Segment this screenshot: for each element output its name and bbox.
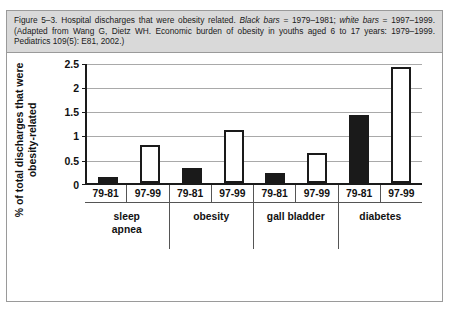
category-label-sleep-apnea: sleepapnea [85,203,170,249]
plot-box [85,64,422,185]
category-label-row: sleepapneaobesitygall bladderdiabetes [85,203,422,249]
period-label-3: 97-99 [212,185,254,202]
bar-slot [255,64,297,183]
y-axis-tick-1-5: 1.5 [43,106,79,118]
period-label-4: 79-81 [254,185,296,202]
y-axis-tick-2-5: 2.5 [43,58,79,70]
y-axis-label-line-1: % of total discharges that were [13,45,26,235]
bar-slot [380,64,422,183]
y-axis-tick-0-5: 0.5 [43,155,79,167]
y-axis-tick-1: 1 [43,130,79,142]
bar-slot [87,64,129,183]
x-axis: 79-8197-9979-8197-9979-8197-9979-8197-99… [85,185,422,249]
period-label-6: 79-81 [339,185,381,202]
period-label-5: 97-99 [296,185,338,202]
bar-series [87,64,422,183]
caption-text-part1: Figure 5–3. Hospital discharges that wer… [14,15,239,25]
y-axis-tick-0: 0 [43,179,79,191]
bar-gall-bladder-79-81[interactable] [265,173,285,183]
y-axis-label-line-2: obesity-related [26,45,39,235]
period-label-0: 79-81 [85,185,127,202]
caption-italic-white-bars: white bars [340,15,379,25]
bar-gall-bladder-97-99[interactable] [307,153,327,183]
bar-slot [129,64,171,183]
bar-sleep-apnea-79-81[interactable] [98,177,118,183]
figure-caption: Figure 5–3. Hospital discharges that wer… [7,11,442,53]
category-label-line: sleep [85,210,169,223]
bar-slot [171,64,213,183]
y-axis-label: % of total discharges that were obesity-… [13,45,39,235]
bar-slot [296,64,338,183]
period-label-1: 97-99 [127,185,169,202]
bar-sleep-apnea-97-99[interactable] [140,145,160,183]
caption-text-part2: = 1979–1981; [280,15,340,25]
chart-area: % of total discharges that were obesity-… [7,53,442,290]
y-axis-tick-labels: 00.511.522.5 [43,53,79,290]
figure-container: Figure 5–3. Hospital discharges that wer… [6,10,443,302]
category-label-line: diabetes [339,210,423,223]
y-axis-tick-2: 2 [43,82,79,94]
bar-diabetes-79-81[interactable] [349,115,369,183]
category-label-diabetes: diabetes [339,203,423,249]
period-label-2: 79-81 [170,185,212,202]
bar-slot [338,64,380,183]
category-label-obesity: obesity [170,203,255,249]
bar-diabetes-97-99[interactable] [391,67,411,183]
category-label-line: gall bladder [254,210,338,223]
category-label-gall-bladder: gall bladder [254,203,339,249]
caption-italic-black-bars: Black bars [239,15,279,25]
bar-slot [213,64,255,183]
bar-obesity-97-99[interactable] [224,130,244,183]
bar-obesity-79-81[interactable] [182,168,202,183]
period-label-row: 79-8197-9979-8197-9979-8197-9979-8197-99 [85,185,422,203]
category-label-line: obesity [170,210,254,223]
category-label-line: apnea [85,223,169,236]
period-label-7: 97-99 [381,185,422,202]
